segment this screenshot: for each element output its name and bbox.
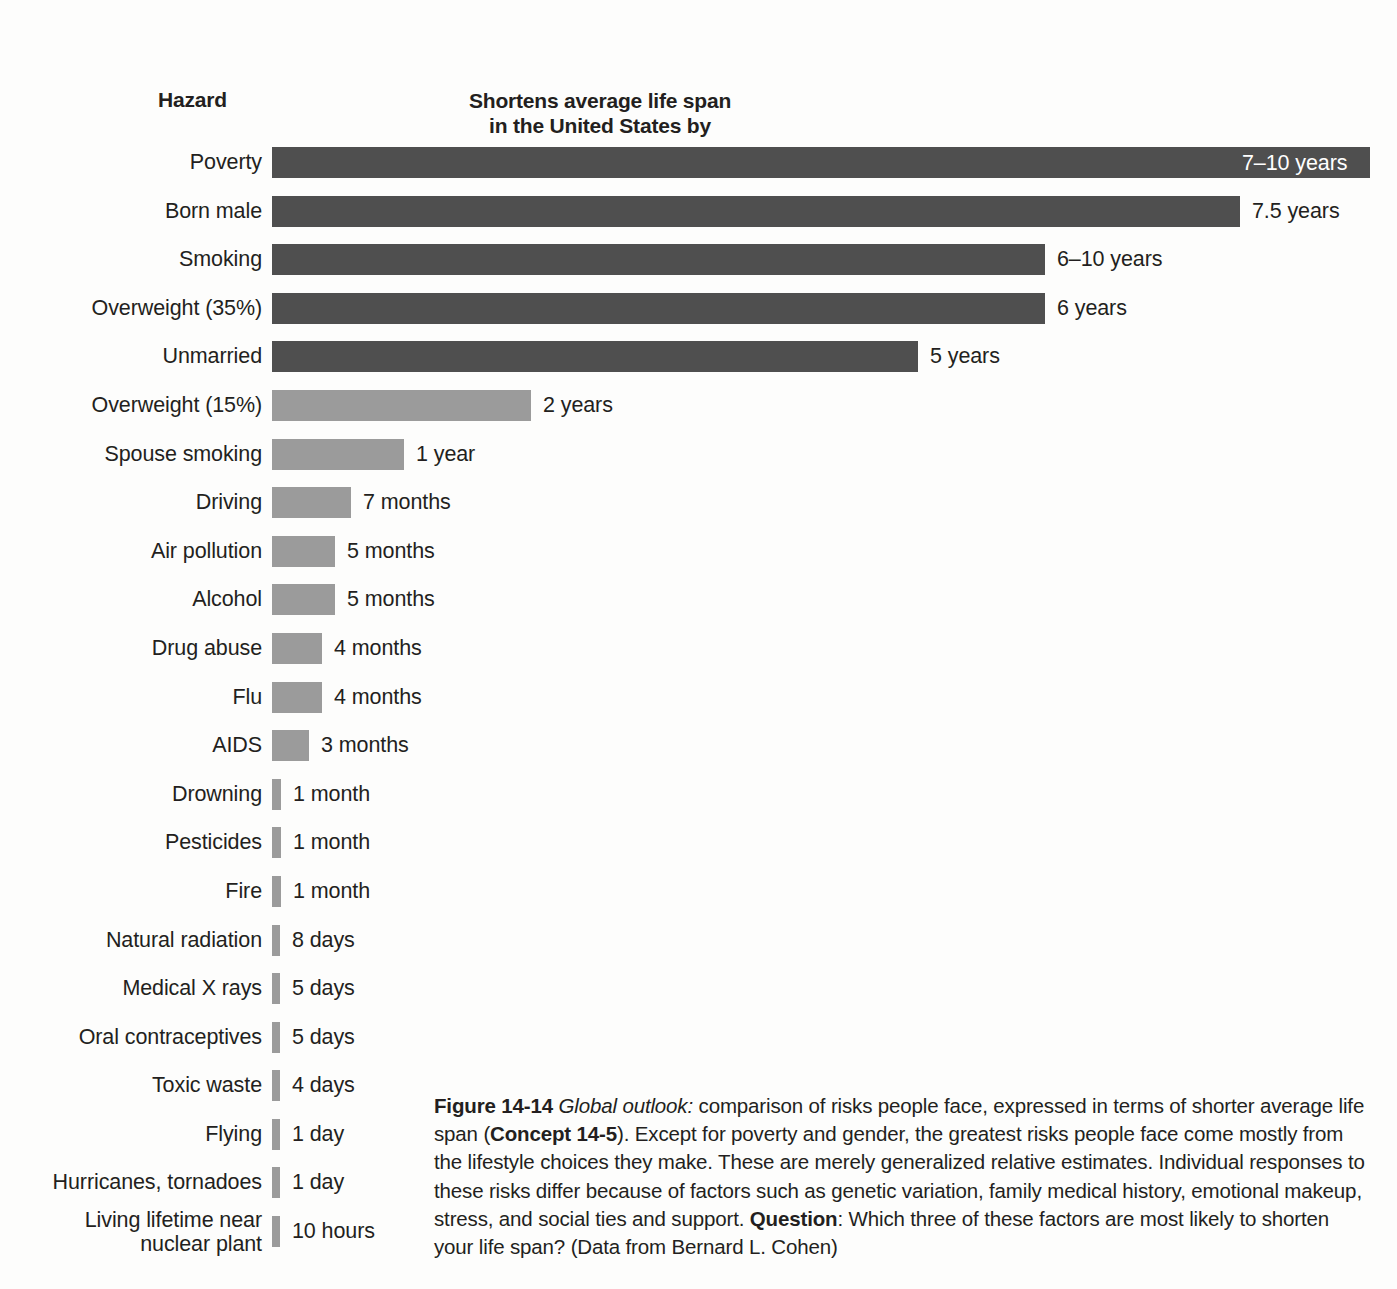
- bar: [272, 487, 351, 518]
- caption-figure-number: Figure 14-14: [434, 1094, 553, 1117]
- bar-value-label: 7–10 years: [1242, 151, 1347, 176]
- bar-chart: Poverty7–10 yearsBorn male7.5 yearsSmoki…: [0, 141, 1397, 1259]
- hazard-label: Living lifetime nearnuclear plant: [0, 1208, 262, 1256]
- hazard-label: Hurricanes, tornadoes: [0, 1170, 262, 1194]
- bar: [272, 293, 1045, 324]
- hazard-label: Flying: [0, 1122, 262, 1146]
- hazard-label: Spouse smoking: [0, 442, 262, 466]
- hazard-label: Medical X rays: [0, 976, 262, 1000]
- hazard-label: Air pollution: [0, 539, 262, 563]
- hazard-label: AIDS: [0, 733, 262, 757]
- hazard-label: Toxic waste: [0, 1073, 262, 1097]
- hazard-label: Poverty: [0, 150, 262, 174]
- chart-row: Overweight (35%)6 years: [0, 287, 1397, 336]
- chart-row: Driving7 months: [0, 481, 1397, 530]
- chart-row: Pesticides1 month: [0, 821, 1397, 870]
- hazard-label: Overweight (35%): [0, 296, 262, 320]
- bar-value-label: 1 month: [293, 879, 370, 904]
- hazard-label: Overweight (15%): [0, 393, 262, 417]
- hazard-label: Oral contraceptives: [0, 1025, 262, 1049]
- bar: [272, 876, 281, 907]
- chart-row: Unmarried5 years: [0, 335, 1397, 384]
- figure-page: Hazard Shortens average life span in the…: [0, 0, 1397, 1289]
- chart-row: Drowning1 month: [0, 773, 1397, 822]
- bar-value-label: 7 months: [363, 490, 451, 515]
- hazard-label: Driving: [0, 490, 262, 514]
- bar-value-label: 5 months: [347, 587, 435, 612]
- chart-row: Spouse smoking1 year: [0, 433, 1397, 482]
- hazard-label: Unmarried: [0, 344, 262, 368]
- chart-row: Medical X rays5 days: [0, 967, 1397, 1016]
- bar: [272, 730, 309, 761]
- chart-row: AIDS3 months: [0, 724, 1397, 773]
- bar: [272, 341, 918, 372]
- chart-row: Poverty7–10 years: [0, 141, 1397, 190]
- bar: [272, 1070, 280, 1101]
- bar: [272, 147, 1370, 178]
- bar: [272, 827, 281, 858]
- bar: [272, 973, 280, 1004]
- bar: [272, 439, 404, 470]
- bar-value-label: 7.5 years: [1252, 199, 1340, 224]
- bar: [272, 244, 1045, 275]
- bar: [272, 390, 531, 421]
- bar-value-label: 5 days: [292, 976, 355, 1001]
- bar-value-label: 1 year: [416, 442, 475, 467]
- chart-row: Oral contraceptives5 days: [0, 1016, 1397, 1065]
- hazard-label: Pesticides: [0, 830, 262, 854]
- caption-lead-italic: Global outlook:: [559, 1094, 694, 1117]
- hazard-label: Flu: [0, 685, 262, 709]
- bar-value-label: 6–10 years: [1057, 247, 1162, 272]
- bar: [272, 584, 335, 615]
- bar-value-label: 6 years: [1057, 296, 1127, 321]
- bar-value-label: 5 months: [347, 539, 435, 564]
- bar-value-label: 2 years: [543, 393, 613, 418]
- bar: [272, 633, 322, 664]
- bar-value-label: 5 days: [292, 1025, 355, 1050]
- column-header-lifespan: Shortens average life span in the United…: [440, 88, 760, 138]
- hazard-label: Smoking: [0, 247, 262, 271]
- column-header-lifespan-line2: in the United States by: [489, 114, 711, 137]
- bar-value-label: 3 months: [321, 733, 409, 758]
- bar-value-label: 5 years: [930, 344, 1000, 369]
- hazard-label: Natural radiation: [0, 928, 262, 952]
- bar-value-label: 1 day: [292, 1122, 344, 1147]
- column-header-hazard: Hazard: [120, 88, 265, 112]
- bar-value-label: 4 months: [334, 685, 422, 710]
- bar: [272, 1167, 280, 1198]
- chart-row: Smoking6–10 years: [0, 238, 1397, 287]
- chart-row: Flu4 months: [0, 676, 1397, 725]
- bar-value-label: 4 months: [334, 636, 422, 661]
- hazard-label: Drug abuse: [0, 636, 262, 660]
- bar-value-label: 4 days: [292, 1073, 355, 1098]
- column-header-lifespan-line1: Shortens average life span: [469, 89, 731, 112]
- bar-value-label: 1 month: [293, 830, 370, 855]
- caption-question-label: Question: [750, 1207, 838, 1230]
- caption-concept: Concept 14-5: [490, 1122, 617, 1145]
- bar: [272, 682, 322, 713]
- chart-row: Natural radiation8 days: [0, 919, 1397, 968]
- hazard-label: Drowning: [0, 782, 262, 806]
- chart-row: Air pollution5 months: [0, 530, 1397, 579]
- bar-value-label: 1 day: [292, 1170, 344, 1195]
- chart-row: Fire1 month: [0, 870, 1397, 919]
- chart-row: Drug abuse4 months: [0, 627, 1397, 676]
- bar: [272, 196, 1240, 227]
- bar: [272, 536, 335, 567]
- hazard-label: Born male: [0, 199, 262, 223]
- chart-row: Alcohol5 months: [0, 578, 1397, 627]
- chart-row: Born male7.5 years: [0, 190, 1397, 239]
- bar-value-label: 1 month: [293, 782, 370, 807]
- hazard-label: Alcohol: [0, 587, 262, 611]
- bar: [272, 779, 281, 810]
- figure-caption: Figure 14-14 Global outlook: comparison …: [434, 1092, 1366, 1261]
- bar: [272, 1119, 280, 1150]
- bar: [272, 1022, 280, 1053]
- bar-value-label: 8 days: [292, 928, 355, 953]
- chart-row: Overweight (15%)2 years: [0, 384, 1397, 433]
- bar-value-label: 10 hours: [292, 1219, 375, 1244]
- bar: [272, 925, 280, 956]
- bar: [272, 1216, 280, 1247]
- hazard-label: Fire: [0, 879, 262, 903]
